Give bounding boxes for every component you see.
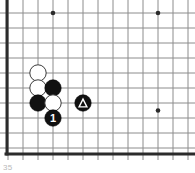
black-stone-triangle[interactable] [75, 95, 91, 111]
diagram-caption: 35 [3, 162, 123, 173]
star-point-upper-right [156, 11, 161, 16]
stone-disc-white[interactable] [45, 95, 61, 111]
white-stone-b[interactable] [30, 80, 46, 96]
black-stone-move-1[interactable]: 1 [45, 110, 61, 126]
stone-disc-white[interactable] [30, 65, 46, 81]
star-point-lower-right [156, 108, 161, 113]
go-diagram-screenshot: 1 35 [0, 0, 195, 173]
stone-disc-black[interactable] [75, 95, 91, 111]
go-board[interactable]: 1 [0, 0, 195, 160]
stone-disc-black[interactable] [45, 80, 61, 96]
black-stone-a[interactable] [45, 80, 61, 96]
go-board-canvas[interactable]: 1 [0, 0, 195, 160]
black-stone-b[interactable] [30, 95, 46, 111]
white-stone-c[interactable] [45, 95, 61, 111]
white-stone-a[interactable] [30, 65, 46, 81]
stone-disc-white[interactable] [30, 80, 46, 96]
stone-mark-label: 1 [50, 112, 56, 124]
star-point-upper-left [51, 11, 56, 16]
stone-disc-black[interactable] [30, 95, 46, 111]
